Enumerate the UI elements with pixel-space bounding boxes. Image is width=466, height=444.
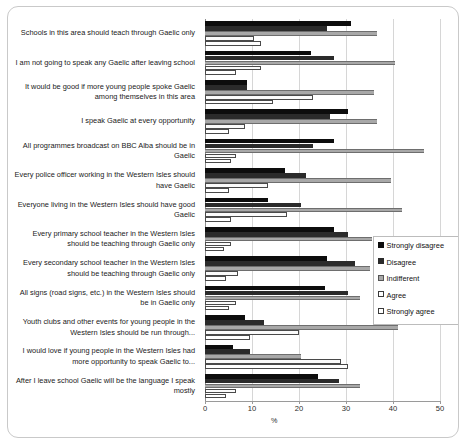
legend-item[interactable]: Indifferent [378, 274, 457, 291]
bar [205, 208, 402, 213]
bar [205, 276, 226, 281]
legend-item[interactable]: Agree [378, 291, 457, 308]
bar [205, 85, 247, 90]
bar [205, 51, 311, 56]
bar [205, 232, 348, 237]
x-tick-label: 0 [203, 404, 207, 413]
bar-group [205, 166, 440, 195]
bar [205, 56, 334, 61]
category-label: Every secondary school teacher in the We… [12, 258, 198, 279]
bar [205, 330, 299, 335]
x-axis: 01020304050 [205, 401, 440, 415]
category-label: Everyone living in the Western Isles sho… [12, 200, 198, 221]
bar [205, 271, 238, 276]
category-label: I am not going to speak any Gaelic after… [12, 58, 198, 69]
category-label: Every primary school teacher in the West… [12, 229, 198, 250]
category-axis-labels: Schools in this area should teach throug… [12, 19, 198, 401]
bar-group [205, 19, 440, 48]
bar-group [205, 78, 440, 107]
bar [205, 227, 334, 232]
x-axis-title: % [271, 416, 277, 425]
bar [205, 389, 236, 394]
bar [205, 315, 245, 320]
bar-group [205, 137, 440, 166]
legend-label: Agree [387, 291, 407, 300]
bar [205, 394, 226, 399]
bar [205, 139, 334, 144]
legend-swatch-icon [378, 308, 384, 314]
bar [205, 21, 351, 26]
category-label: Youth clubs and other events for young p… [12, 317, 198, 338]
bar [205, 36, 254, 41]
legend-item[interactable]: Disagree [378, 258, 457, 275]
category-label: It would be good if more young people sp… [12, 82, 198, 103]
legend-swatch-icon [378, 258, 384, 264]
legend-swatch-icon [378, 242, 384, 248]
bar [205, 345, 233, 350]
bar-group [205, 195, 440, 224]
x-tick-label: 50 [436, 404, 444, 413]
bar [205, 242, 231, 247]
plot-area [205, 19, 440, 401]
legend-item[interactable]: Strongly disagree [378, 241, 457, 258]
bar [205, 286, 325, 291]
category-label: I speak Gaelic at every opportunity [12, 116, 198, 127]
legend-label: Indifferent [387, 274, 420, 283]
bar [205, 374, 318, 379]
bar [205, 173, 306, 178]
x-tick-label: 20 [295, 404, 303, 413]
bar [205, 379, 339, 384]
bar [205, 159, 231, 164]
bar [205, 296, 360, 301]
bar [205, 247, 224, 252]
x-tick-label: 10 [248, 404, 256, 413]
bar-group [205, 342, 440, 371]
bar [205, 129, 229, 134]
bar [205, 212, 287, 217]
bar [205, 359, 341, 364]
bar [205, 198, 268, 203]
bar [205, 124, 245, 129]
bar [205, 203, 301, 208]
bar [205, 100, 273, 105]
bar-group [205, 48, 440, 77]
legend-swatch-icon [378, 291, 384, 297]
bar [205, 26, 327, 31]
bar [205, 70, 236, 75]
bar [205, 349, 250, 354]
category-label: All programmes broadcast on BBC Alba sho… [12, 141, 198, 162]
bar [205, 256, 327, 261]
category-label: I would love if young people in the West… [12, 346, 198, 367]
bar [205, 178, 391, 183]
bar [205, 80, 247, 85]
bar [205, 384, 360, 389]
bar-group [205, 372, 440, 401]
bar [205, 306, 229, 311]
bar [205, 237, 372, 242]
category-label: After I leave school Gaelic will be the … [12, 376, 198, 397]
bar [205, 61, 395, 66]
bar [205, 154, 236, 159]
bar [205, 188, 229, 193]
x-tick-label: 40 [389, 404, 397, 413]
bar [205, 266, 370, 271]
bar [205, 144, 313, 149]
bar [205, 183, 268, 188]
legend-label: Disagree [387, 258, 417, 267]
bar-group [205, 107, 440, 136]
bar [205, 31, 377, 36]
bar [205, 114, 330, 119]
bar [205, 95, 313, 100]
bar [205, 109, 348, 114]
bar [205, 320, 264, 325]
bar [205, 41, 261, 46]
category-label: All signs (road signs, etc.) in the West… [12, 288, 198, 309]
bar [205, 261, 355, 266]
legend-label: Strongly disagree [387, 241, 445, 250]
category-label: Schools in this area should teach throug… [12, 28, 198, 39]
bar [205, 291, 348, 296]
legend-item[interactable]: Strongly agree [378, 307, 457, 324]
chart-plot-wrapper: Schools in this area should teach throug… [8, 7, 459, 438]
legend-swatch-icon [378, 275, 384, 281]
bar [205, 325, 398, 330]
